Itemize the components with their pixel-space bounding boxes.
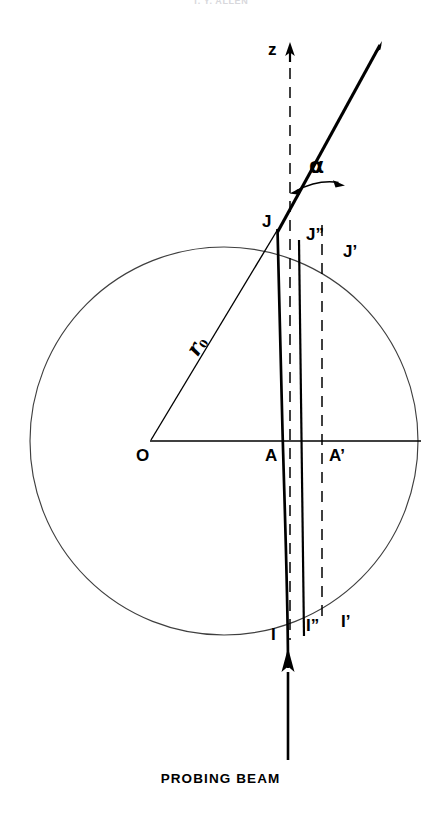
- figure-caption: PROBING BEAM: [0, 771, 441, 786]
- point-label-j-prime: J’: [343, 243, 357, 260]
- figure-root: T. Y. ALLEN z: [0, 0, 441, 814]
- point-label-i: I: [271, 626, 276, 643]
- radius-line-to-j: [151, 229, 278, 440]
- point-label-a: A: [265, 447, 277, 464]
- point-label-i-prime: I’: [341, 613, 350, 630]
- secondary-ray-j2-i2: [299, 240, 304, 636]
- point-label-i-double-prime: I”: [306, 617, 319, 634]
- z-axis-label: z: [268, 41, 277, 58]
- point-label-j: J: [262, 213, 271, 230]
- point-label-j-double-prime: J”: [306, 226, 324, 243]
- alpha-arc-right-arrow-icon: [333, 180, 345, 187]
- emergent-beam: [278, 45, 380, 232]
- refracted-ray-inside-medium: [278, 229, 289, 668]
- diagram-canvas: [0, 0, 441, 814]
- alpha-arc-left-arrow-icon: [290, 188, 302, 195]
- point-label-a-prime: A’: [329, 447, 345, 464]
- point-label-origin: O: [136, 447, 149, 464]
- alpha-angle-label: α: [309, 155, 324, 177]
